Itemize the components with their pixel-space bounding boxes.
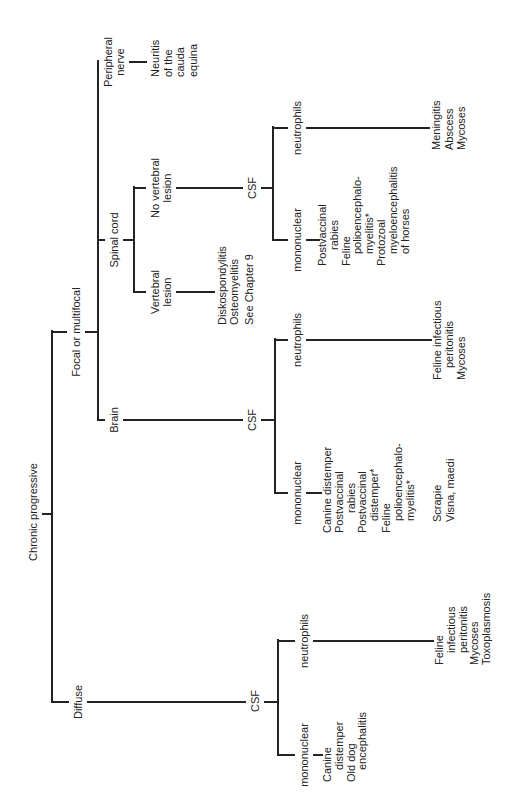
finding-text: See Chapter 9 — [243, 246, 255, 325]
node-brain-mononuclear: mononuclear — [288, 458, 306, 528]
finding-text: Diskospondylitis — [216, 246, 228, 325]
node-spinal-cord: Spinal cord — [105, 209, 123, 270]
node-vertebral-lesion: Vertebral lesion — [146, 267, 176, 317]
findings-brain-mononuclear-other: Scrapie Visna, maedi — [431, 459, 456, 522]
node-label-line: lesion — [161, 270, 173, 314]
finding-entry: Feline polioencephalo- myelitis* — [341, 167, 376, 266]
finding-text: Osteomyelitis — [228, 246, 240, 325]
finding-text: Mycoses — [455, 100, 468, 150]
node-brain-neutrophils: neutrophils — [288, 310, 306, 370]
finding-entry: Feline polioencephalo- myelitis* — [381, 443, 416, 533]
finding-entry: Protozoal myeloencephalitis of horses — [376, 167, 411, 266]
finding-text: peritonitis — [444, 301, 456, 381]
findings-spinal-mononuclear: Postvaccinal rabies Feline polioencephal… — [317, 167, 411, 266]
finding-text: cauda — [174, 40, 187, 77]
finding-text: equina — [187, 40, 200, 77]
finding-text: infectious — [446, 593, 458, 665]
findings-brain-neutrophils: Feline infectious peritonitis Mycoses — [432, 301, 467, 381]
finding-text: Visna, maedi — [444, 459, 457, 522]
finding-entry: Feline infectious peritonitis — [434, 593, 469, 665]
finding-text: Meningitis — [430, 100, 443, 150]
findings-peripheral-nerve: Neuritis of the cauda equina — [149, 40, 199, 77]
node-label-line: lesion — [161, 158, 173, 218]
connector-brain-csf-bar — [274, 338, 276, 494]
finding-text: Mycoses — [456, 301, 468, 381]
node-brain-csf: CSF — [243, 406, 261, 434]
node-brain: Brain — [105, 404, 123, 436]
node-spinal-neutrophils: neutrophils — [288, 98, 306, 158]
finding-text: Feline — [381, 443, 393, 533]
connector-spinal-csf-bar — [272, 126, 274, 241]
findings-spinal-neutrophils: Meningitis Abscess Mycoses — [430, 100, 468, 150]
finding-text: Scrapie — [431, 459, 444, 522]
findings-brain-mononuclear: Canine distemper Postvaccinal rabies Pos… — [322, 443, 416, 533]
finding-entry: Toxoplasmosis — [481, 593, 493, 665]
finding-text: polioencephalo- — [393, 443, 405, 533]
node-no-vertebral-lesion: No vertebral lesion — [146, 155, 176, 221]
node-diffuse-mononuclear: mononuclear — [295, 720, 313, 790]
finding-text: Toxoplasmosis — [481, 593, 493, 665]
node-diffuse: Diffuse — [69, 682, 87, 722]
finding-entry: Postvaccinal distemper* — [357, 443, 381, 533]
node-chronic-progressive: Chronic progressive — [24, 460, 42, 564]
connector-level1-bar — [51, 330, 53, 703]
node-peripheral-nerve: Peripheral nerve — [99, 34, 129, 90]
node-spinal-mononuclear: mononuclear — [288, 205, 306, 275]
node-diffuse-neutrophils: neutrophils — [295, 611, 313, 671]
findings-diffuse-mononuclear: Canine distemper Old dog encephalitis — [322, 712, 369, 782]
node-focal-or-multifocal: Focal or multifocal — [67, 284, 85, 379]
decision-tree-diagram: Chronic progressive Diffuse CSF mononucl… — [0, 0, 522, 807]
node-label-line: Vertebral — [149, 270, 161, 314]
finding-entry: Old dog encephalitis — [346, 712, 370, 782]
finding-text: Abscess — [443, 100, 456, 150]
node-label-line: nerve — [114, 37, 126, 87]
finding-entry: Mycoses — [456, 301, 468, 381]
node-label-line: No vertebral — [149, 158, 161, 218]
finding-text: Postvaccinal — [317, 167, 329, 266]
finding-text: Neuritis — [149, 40, 162, 77]
node-diffuse-csf: CSF — [246, 687, 264, 715]
connector-diffuse-csf-bar — [277, 639, 279, 756]
findings-diffuse-neutrophils: Feline infectious peritonitis Mycoses To… — [434, 593, 493, 665]
finding-entry: Canine distemper — [322, 712, 346, 782]
node-spinal-csf: CSF — [243, 174, 261, 202]
finding-text: encephalitis — [357, 712, 369, 782]
finding-text: myelitis* — [405, 443, 417, 533]
finding-text: rabies — [329, 167, 341, 266]
node-label-line: Peripheral — [102, 37, 114, 87]
finding-text: myeloencephalitis — [388, 167, 400, 266]
finding-text: of horses — [400, 167, 412, 266]
finding-text: of the — [162, 40, 175, 77]
finding-entry: Postvaccinal rabies — [334, 443, 358, 533]
finding-entry: Feline infectious peritonitis — [432, 301, 456, 381]
connector-spinal-bar — [133, 186, 135, 293]
finding-text: distemper — [334, 712, 346, 782]
finding-text: Protozoal — [376, 167, 388, 266]
finding-text: Postvaccinal — [334, 443, 346, 533]
finding-entry: Postvaccinal rabies — [317, 167, 341, 266]
findings-vertebral-lesion: Diskospondylitis Osteomyelitis See Chapt… — [216, 246, 255, 325]
